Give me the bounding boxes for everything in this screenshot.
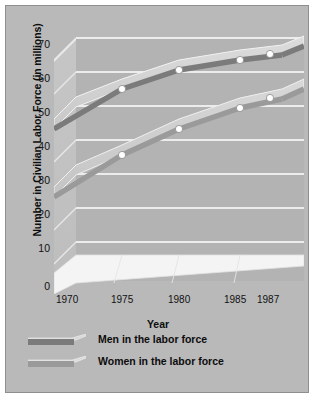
legend-swatch-women [28, 356, 86, 370]
chart-figure: Number in Civilian Labor Force (in milli… [5, 5, 309, 393]
y-tick-label-30: 30 [24, 175, 50, 185]
legend-item-men: Men in the labor force [28, 330, 292, 352]
x-axis-title: Year [6, 318, 309, 330]
legend-swatch-men [28, 334, 86, 348]
x-tick-label-1975: 1975 [111, 294, 133, 305]
y-tick-label-20: 20 [24, 209, 50, 219]
legend-item-women: Women in the labor force [28, 352, 292, 374]
legend-label-men: Men in the labor force [98, 333, 207, 345]
y-tick-label-10: 10 [24, 243, 50, 253]
x-tick-label-1970: 1970 [56, 294, 78, 305]
y-tick-label-50: 50 [24, 107, 50, 117]
y-tick-label-60: 60 [24, 73, 50, 83]
y-tick-label-70: 70 [24, 39, 50, 49]
legend-label-women: Women in the labor force [98, 355, 224, 367]
x-tick-label-1987: 1987 [257, 294, 279, 305]
x-tick-label-1980: 1980 [168, 294, 190, 305]
plot-area [54, 26, 304, 294]
y-tick-label-0: 0 [24, 281, 50, 291]
y-tick-label-40: 40 [24, 141, 50, 151]
chart-legend: Men in the labor force Women in the labo… [28, 330, 292, 374]
x-tick-label-1985: 1985 [224, 294, 246, 305]
